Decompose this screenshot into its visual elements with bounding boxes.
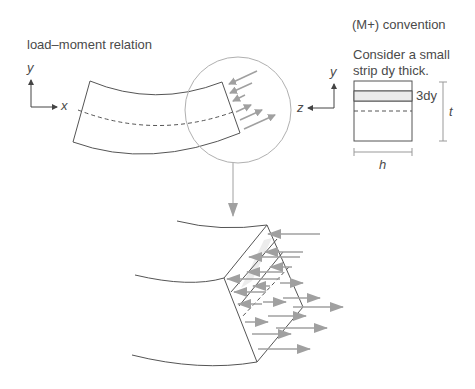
height-label-t: t	[449, 104, 453, 119]
stress-arrows-bottom	[227, 234, 343, 349]
zoom-circle	[185, 57, 291, 163]
moment-convention: (M+) convention	[352, 17, 446, 32]
moment-sign-icon: (M+)	[352, 17, 379, 32]
strip-thickness-label: 3dy	[416, 88, 437, 103]
strip-note-line1: Consider a small	[353, 47, 450, 62]
axis-label-y-left: y	[27, 60, 34, 75]
strip-note-line2: strip dy thick.	[353, 63, 429, 78]
axis-label-z: z	[297, 100, 304, 115]
diagram-title: load–moment relation	[27, 37, 152, 52]
beam-top	[73, 81, 240, 154]
axes-left	[31, 80, 57, 107]
axes-right	[308, 84, 334, 108]
beam-bottom	[132, 221, 303, 366]
axis-label-y-right: y	[330, 64, 337, 79]
convention-label: convention	[383, 17, 446, 32]
axis-label-x: x	[61, 98, 68, 113]
width-label-h: h	[379, 157, 386, 172]
